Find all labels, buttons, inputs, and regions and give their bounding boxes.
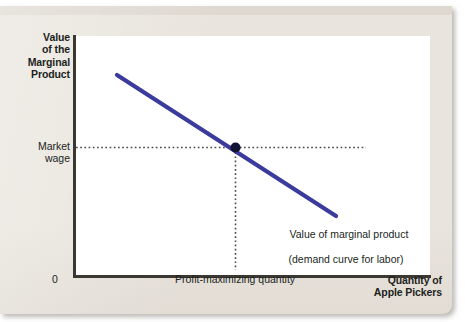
curve-annotation-line-1: Value of marginal product [289, 228, 408, 240]
y-axis-line [73, 35, 76, 278]
curve-annotation-line-2: (demand curve for labor) [258, 253, 434, 265]
origin-label: 0 [52, 273, 58, 285]
card-top-band [0, 6, 452, 15]
curve-annotation: Value of marginal product (demand curve … [258, 216, 434, 278]
y-axis-title: Value of the Marginal Product [8, 31, 70, 81]
market-wage-axis-label: Market wage [6, 140, 70, 165]
